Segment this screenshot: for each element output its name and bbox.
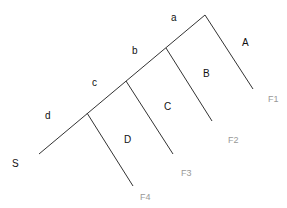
branch-line-c bbox=[126, 81, 173, 154]
end-label-f3: F3 bbox=[181, 168, 192, 178]
segment-label-c: c bbox=[92, 77, 97, 88]
end-label-f4: F4 bbox=[140, 192, 151, 202]
branch-label-c: C bbox=[164, 101, 171, 112]
branch-line-d bbox=[87, 113, 133, 186]
segment-label-d: d bbox=[45, 110, 51, 121]
segment-label-b: b bbox=[132, 45, 138, 56]
end-label-f1: F1 bbox=[268, 94, 279, 104]
segment-label-a: a bbox=[171, 12, 177, 23]
end-label-f2: F2 bbox=[228, 135, 239, 145]
branch-label-b: B bbox=[203, 68, 210, 79]
start-label: S bbox=[12, 158, 19, 169]
branch-line-b bbox=[166, 48, 212, 121]
tree-diagram: a b c d S A B C D F1 F2 F3 F4 bbox=[0, 0, 287, 208]
branch-line-a bbox=[205, 15, 253, 89]
branch-label-a: A bbox=[242, 37, 249, 48]
trunk-line bbox=[39, 15, 205, 154]
branch-label-d: D bbox=[124, 134, 131, 145]
